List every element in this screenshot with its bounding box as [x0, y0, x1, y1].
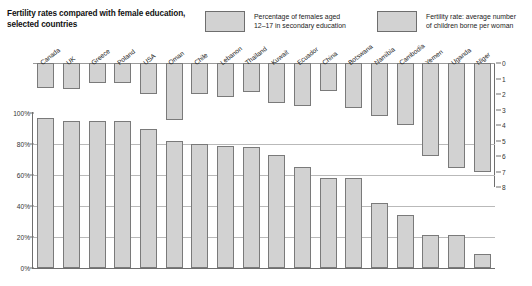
- y-tick-left-0: 0%: [0, 265, 30, 272]
- fertility-bar-chile: [191, 63, 208, 94]
- legend-label-education: Percentage of females aged 12–17 in seco…: [254, 11, 346, 31]
- education-bar-thailand: [243, 147, 260, 268]
- education-bar-kuwait: [268, 155, 285, 268]
- y-tick-mark-right: [496, 187, 501, 188]
- legend-swatch-education: [205, 11, 245, 32]
- y-axis-left-line: [32, 112, 33, 269]
- education-bar-ecuador: [294, 167, 311, 268]
- y-tick-mark-right: [496, 63, 501, 64]
- fertility-bar-kuwait: [268, 63, 285, 103]
- education-bar-uk: [63, 121, 80, 268]
- legend-swatch-fertility: [377, 11, 417, 32]
- y-tick-left-80: 80%: [0, 141, 30, 148]
- x-axis-baseline: [33, 268, 495, 269]
- education-bar-yemen: [422, 235, 439, 268]
- legend-item-fertility: Fertility rate: average number of childr…: [377, 11, 516, 32]
- fertility-bar-namibia: [371, 63, 388, 116]
- y-tick-mark-right: [496, 171, 501, 172]
- fertility-bar-cambodia: [397, 63, 414, 125]
- y-tick-mark-left: [30, 268, 34, 269]
- fertility-bar-ecuador: [294, 63, 311, 106]
- y-tick-left-20: 20%: [0, 234, 30, 241]
- fertility-bar-yemen: [422, 63, 439, 156]
- education-bar-uganda: [448, 235, 465, 268]
- y-tick-mark-right: [496, 109, 501, 110]
- education-bar-cambodia: [397, 215, 414, 268]
- fertility-bar-poland: [114, 63, 131, 83]
- education-bar-chile: [191, 144, 208, 268]
- education-bar-usa: [140, 129, 157, 269]
- fertility-bar-usa: [140, 63, 157, 94]
- education-bar-canada: [37, 118, 54, 268]
- fertility-bar-greece: [89, 63, 106, 83]
- fertility-bar-uk: [63, 63, 80, 89]
- y-tick-mark-right: [496, 125, 501, 126]
- education-bar-china: [320, 178, 337, 268]
- fertility-bar-canada: [37, 63, 54, 88]
- y-tick-mark-right: [496, 78, 501, 79]
- legend-item-education: Percentage of females aged 12–17 in seco…: [205, 11, 346, 32]
- fertility-bar-lebanon: [217, 63, 234, 97]
- fertility-bar-niger: [474, 63, 491, 172]
- education-bar-niger: [474, 254, 491, 268]
- y-tick-mark-right: [496, 156, 501, 157]
- fertility-bar-china: [320, 63, 337, 91]
- education-bar-poland: [114, 121, 131, 268]
- y-tick-left-100: 100%: [0, 110, 30, 117]
- y-tick-mark-left: [30, 113, 34, 114]
- education-bar-greece: [89, 121, 106, 268]
- education-bar-lebanon: [217, 146, 234, 268]
- chart-title: Fertility rates compared with female edu…: [7, 8, 207, 30]
- education-bar-namibia: [371, 203, 388, 268]
- fertility-bar-uganda: [448, 63, 465, 168]
- y-tick-mark-right: [496, 140, 501, 141]
- education-bar-botswana: [345, 178, 362, 268]
- fertility-bar-thailand: [243, 63, 260, 92]
- fertility-bar-botswana: [345, 63, 362, 108]
- y-tick-left-40: 40%: [0, 203, 30, 210]
- y-tick-left-60: 60%: [0, 172, 30, 179]
- fertility-bar-oman: [166, 63, 183, 120]
- chart-root: Fertility rates compared with female edu…: [0, 0, 532, 286]
- y-tick-mark-right: [496, 94, 501, 95]
- legend-label-fertility: Fertility rate: average number of childr…: [426, 11, 516, 31]
- education-bar-oman: [166, 141, 183, 268]
